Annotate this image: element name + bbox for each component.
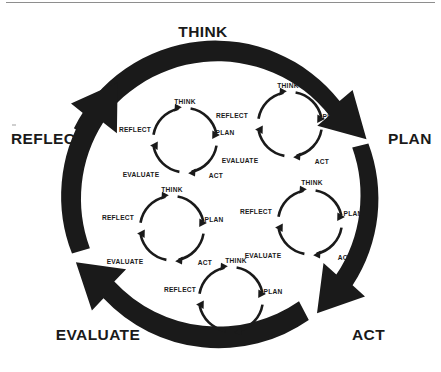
micro2-label-think: THINK — [277, 83, 298, 90]
cycle-diagram-graphic: .bigarc { fill:#1a1a1a; stroke:none; } .… — [0, 0, 441, 372]
outer-arrow-think-to-plan — [74, 41, 367, 140]
micro3-label-plan: PLAN — [205, 217, 224, 224]
micro1-label-think: THINK — [174, 99, 195, 106]
micro1-label-plan: PLAN — [216, 130, 235, 137]
outer-arrow-plan-to-act — [317, 143, 378, 313]
outer-label-plan: PLAN — [388, 131, 432, 147]
outer-label-act: ACT — [352, 327, 385, 343]
outer-label-think: THINK — [178, 24, 227, 40]
micro2-label-act: ACT — [315, 159, 329, 166]
micro3-label-think: THINK — [161, 187, 182, 194]
outer-label-reflect: REFLECT — [11, 131, 85, 147]
micro5-label-think: THINK — [225, 258, 246, 265]
outer-label-evaluate: EVALUATE — [56, 327, 140, 343]
micro4-label-reflect: REFLECT — [240, 209, 272, 216]
micro5-label-evaluate: EVALUATE — [168, 330, 205, 337]
outer-arrow-evaluate-to-reflect — [61, 82, 117, 253]
micro2-label-reflect: REFLECT — [216, 113, 248, 120]
micro5-label-act: ACT — [259, 332, 273, 339]
micro3-label-evaluate: EVALUATE — [107, 259, 144, 266]
micro2-label-plan: PLAN — [323, 114, 342, 121]
diagram-canvas: .bigarc { fill:#1a1a1a; stroke:none; } .… — [0, 0, 441, 372]
micro-cycle-top-left — [150, 104, 220, 177]
micro4-label-act: ACT — [338, 255, 352, 262]
micro5-label-reflect: REFLECT — [164, 287, 196, 294]
micro5-label-plan: PLAN — [264, 289, 283, 296]
micro4-label-think: THINK — [301, 180, 322, 187]
micro-cycle-middle-right — [275, 186, 345, 259]
micro1-label-act: ACT — [209, 173, 223, 180]
micro4-label-evaluate: EVALUATE — [245, 253, 282, 260]
micro1-label-evaluate: EVALUATE — [123, 172, 160, 179]
micro-cycle-middle-left — [137, 192, 207, 265]
micro2-label-evaluate: EVALUATE — [222, 158, 259, 165]
micro1-label-reflect: REFLECT — [119, 127, 151, 134]
micro3-label-act: ACT — [198, 260, 212, 267]
micro4-label-plan: PLAN — [344, 211, 363, 218]
micro3-label-reflect: REFLECT — [102, 215, 134, 222]
